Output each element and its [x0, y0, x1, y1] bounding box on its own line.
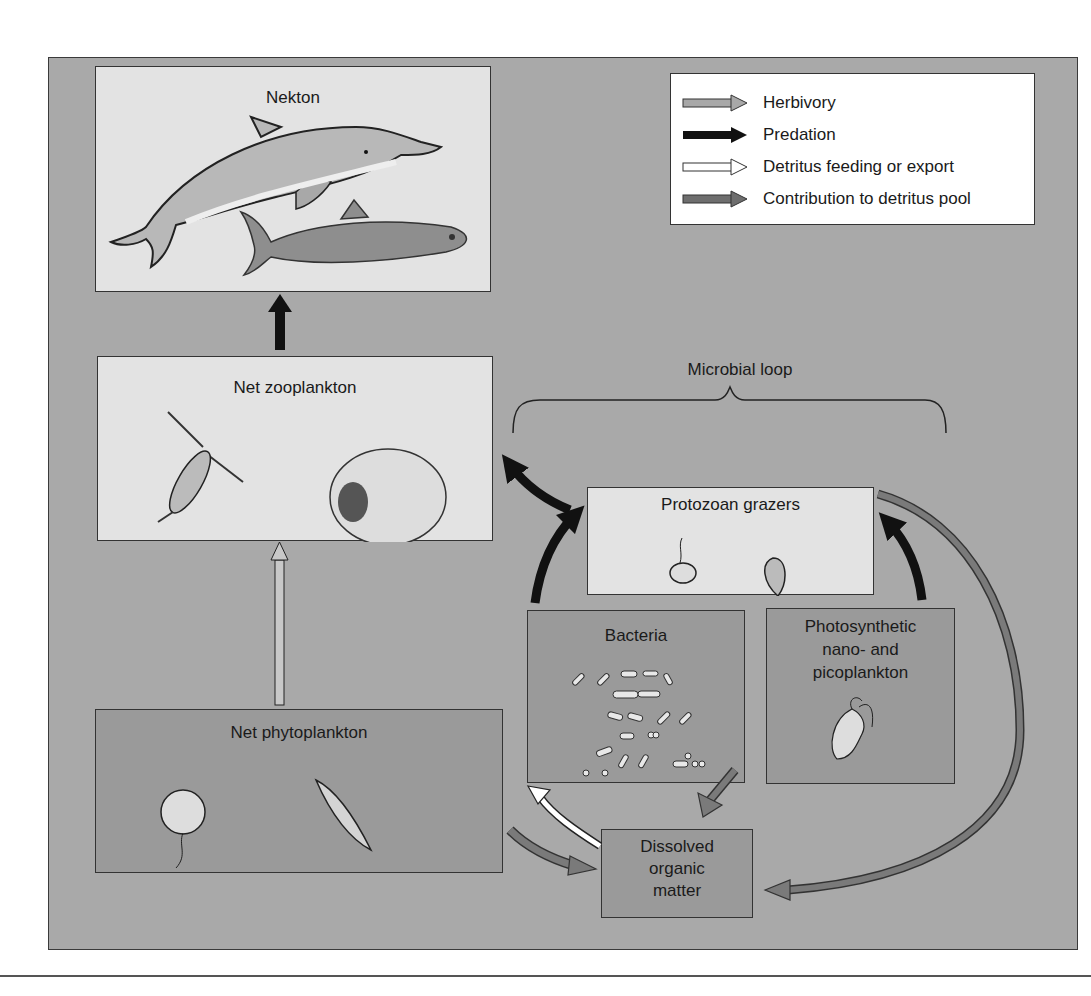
arrow-predation-photosynthetic-to-protozoa	[888, 522, 922, 600]
legend-label-contribution: Contribution to detritus pool	[763, 189, 971, 209]
arrow-contribution-icon	[681, 189, 751, 209]
arrow-detritus-icon	[681, 157, 751, 177]
legend-label-herbivory: Herbivory	[763, 93, 836, 113]
legend-label-predation: Predation	[763, 125, 836, 145]
legend-label-detritus: Detritus feeding or export	[763, 157, 954, 177]
arrow-predation-zooplankton-to-nekton	[268, 294, 292, 350]
arrow-herbivory-icon	[681, 93, 751, 113]
arrow-contribution-protozoa-to-dom	[765, 494, 1020, 900]
bottom-rule	[0, 975, 1091, 977]
legend-item-predation: Predation	[681, 123, 836, 147]
legend: Herbivory Predation Detritus feeding or …	[670, 73, 1035, 225]
legend-item-herbivory: Herbivory	[681, 91, 836, 115]
legend-item-detritus: Detritus feeding or export	[681, 155, 954, 179]
legend-item-contribution: Contribution to detritus pool	[681, 187, 971, 211]
arrow-detritus-dom-to-bacteria	[528, 786, 600, 846]
arrow-contribution-photosynthetic-to-dom	[698, 770, 735, 817]
arrow-predation-icon	[681, 125, 751, 145]
arrow-predation-protozoa-to-zooplankton	[510, 465, 570, 510]
arrow-predation-bacteria-to-protozoa	[535, 515, 575, 603]
arrow-herbivory-phytoplankton-to-zooplankton	[271, 542, 288, 705]
microbial-loop-brace	[513, 387, 946, 433]
